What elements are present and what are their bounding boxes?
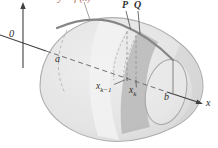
curve-equation-label: y = f (x) [58, 0, 91, 3]
x-axis-label: x [206, 98, 210, 108]
xk-subscript: k [133, 90, 136, 98]
a-label: a [55, 54, 60, 64]
b-label: b [164, 92, 169, 102]
point-q-label: Q [134, 0, 141, 10]
point-p-label: P [122, 0, 128, 10]
xk-1-subscript: k−1 [100, 86, 111, 94]
xk-1-label: xk−1 [96, 82, 112, 94]
curve-label-leader [84, 2, 90, 20]
origin-label: 0 [9, 29, 14, 40]
figure-canvas [0, 0, 218, 148]
solid-of-revolution-figure: y = f (x) P Q 0 a xk−1 xk b x [0, 0, 218, 148]
xk-label: xk [129, 86, 136, 98]
y-axis-arrowhead [20, 2, 25, 9]
